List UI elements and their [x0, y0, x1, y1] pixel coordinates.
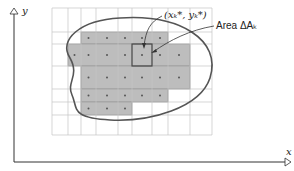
- x-axis-arrow-icon: [285, 158, 291, 166]
- sample-point: [88, 37, 90, 39]
- sample-point: [106, 108, 108, 110]
- sample-point: [124, 54, 126, 56]
- sample-point: [159, 54, 161, 56]
- sample-point: [141, 37, 143, 39]
- sample-point: [124, 108, 126, 110]
- sample-point: [159, 37, 161, 39]
- sample-point: [106, 77, 108, 79]
- sample-point: [141, 54, 143, 56]
- sample-point: [124, 95, 126, 97]
- sample-point: [88, 108, 90, 110]
- sample-point: [88, 77, 90, 79]
- sample-point: [74, 54, 76, 56]
- riemann-region-diagram: y x (xₖ*, yₖ*) Area ΔAₖ: [0, 0, 294, 171]
- shaded-rectangle: [81, 66, 190, 89]
- sample-point: [124, 77, 126, 79]
- sample-point-label: (xₖ*, yₖ*): [164, 9, 207, 20]
- sample-point: [106, 54, 108, 56]
- sample-point: [159, 95, 161, 97]
- sample-point: [124, 37, 126, 39]
- y-axis-label: y: [21, 5, 28, 16]
- sample-point: [178, 54, 180, 56]
- sample-point: [141, 77, 143, 79]
- sample-point: [178, 77, 180, 79]
- y-axis-arrow-icon: [10, 8, 18, 14]
- shaded-rectangles: [68, 32, 190, 115]
- shaded-rectangle: [68, 44, 190, 66]
- sample-point: [88, 95, 90, 97]
- sample-point: [159, 77, 161, 79]
- sample-point: [106, 95, 108, 97]
- sample-point: [106, 37, 108, 39]
- sample-point: [141, 95, 143, 97]
- area-label: Area ΔAₖ: [216, 20, 257, 31]
- x-axis-label: x: [286, 146, 292, 157]
- sample-point: [88, 54, 90, 56]
